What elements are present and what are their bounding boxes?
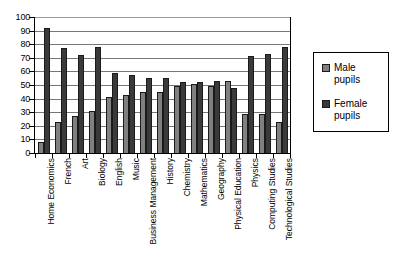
chart-legend: Male pupilsFemale pupils (313, 52, 389, 132)
bar-groups (36, 17, 290, 153)
bar-group (222, 17, 239, 153)
x-axis-label-cell: Biology (86, 158, 103, 274)
bar[interactable] (265, 54, 271, 153)
x-axis-label-cell: Technological Studies (273, 158, 290, 274)
x-axis-label-cell: Chemistry (171, 158, 188, 274)
x-axis-label-cell: French (52, 158, 69, 274)
x-axis-label-cell: Home Economics (35, 158, 52, 274)
x-axis-category-labels: Home EconomicsFrenchArtBiologyEnglishMus… (35, 158, 290, 274)
bar-group (172, 17, 189, 153)
bar-group (239, 17, 256, 153)
x-axis-label-cell: Business Management (137, 158, 154, 274)
bar[interactable] (197, 82, 203, 153)
grouped-bar-chart: 0102030405060708090100 Home EconomicsFre… (0, 0, 405, 276)
bar[interactable] (180, 82, 186, 153)
x-axis-label-cell: Art (69, 158, 86, 274)
bar-group (70, 17, 87, 153)
bar-group (256, 17, 273, 153)
bar-group (273, 17, 290, 153)
bar[interactable] (112, 73, 118, 153)
bar-group (53, 17, 70, 153)
x-axis-label-cell: English (103, 158, 120, 274)
legend-item[interactable]: Male pupils (322, 62, 388, 86)
legend-item[interactable]: Female pupils (322, 98, 388, 122)
legend-swatch-female (322, 100, 330, 108)
x-axis-label-cell: Music (120, 158, 137, 274)
bar-group (205, 17, 222, 153)
bar[interactable] (95, 47, 101, 153)
bar[interactable] (61, 48, 67, 153)
x-axis-label-cell: Geography (205, 158, 222, 274)
bar[interactable] (231, 88, 237, 153)
x-axis-category-label: Technological Studies (285, 158, 294, 240)
x-axis-label-cell: Computing Studies (256, 158, 273, 274)
bar-group (155, 17, 172, 153)
legend-swatch-male (322, 64, 330, 72)
legend-label: Male pupils (334, 62, 382, 86)
x-axis-label-cell: Mathematics (188, 158, 205, 274)
bar[interactable] (146, 78, 152, 153)
bar-group (104, 17, 121, 153)
y-axis-tick-labels: 0102030405060708090100 (4, 17, 30, 153)
x-axis-label-cell: Physical Education (222, 158, 239, 274)
bar[interactable] (129, 75, 135, 153)
bar[interactable] (214, 81, 220, 153)
plot-area (34, 17, 291, 154)
bar-group (36, 17, 53, 153)
bar[interactable] (248, 56, 254, 153)
x-axis-label-cell: History (154, 158, 171, 274)
x-axis-label-cell: Physics (239, 158, 256, 274)
y-axis-tick-label: 100 (16, 13, 30, 22)
bar[interactable] (163, 78, 169, 153)
bar-group (121, 17, 138, 153)
plot-wrapper: 0102030405060708090100 Home EconomicsFre… (0, 0, 300, 276)
bar-group (87, 17, 104, 153)
bar-group (138, 17, 155, 153)
bar[interactable] (78, 55, 84, 153)
bar[interactable] (282, 47, 288, 153)
legend-label: Female pupils (334, 98, 382, 122)
bar-group (188, 17, 205, 153)
bar[interactable] (44, 28, 50, 153)
